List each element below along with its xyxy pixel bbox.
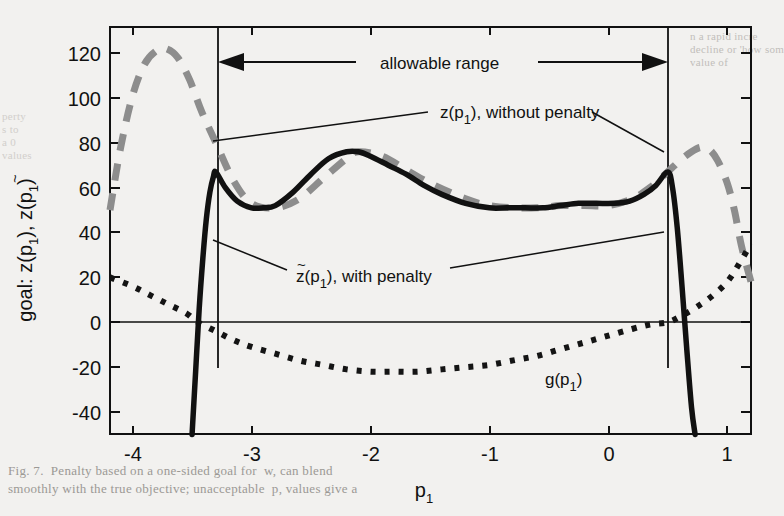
y-tick-label-100: 100 bbox=[68, 88, 101, 110]
z-without-penalty-annotation: z(p1), without penalty bbox=[213, 103, 664, 152]
y-axis-title-tilde: ~ bbox=[6, 174, 23, 183]
y-tick-label-neg40: -40 bbox=[72, 402, 101, 424]
allowable-range-annotation: allowable range bbox=[218, 53, 668, 73]
y-tick-label-120: 120 bbox=[68, 43, 101, 65]
y-axis-title-mid: ), z bbox=[14, 210, 36, 238]
svg-text:z(p1), without penalty: z(p1), without penalty bbox=[440, 103, 600, 127]
y-axis-title-mid2: (p bbox=[14, 192, 36, 210]
z-no-penalty-label-head: z(p bbox=[440, 103, 464, 122]
g-curve-label-group: g(p1) bbox=[545, 370, 582, 394]
curve-g-constraint bbox=[110, 244, 751, 372]
z-tilde-label-sub: 1 bbox=[320, 276, 327, 291]
curve-z-tilde-with-penalty bbox=[192, 151, 695, 434]
y-tick-label-0: 0 bbox=[90, 312, 101, 334]
x-axis-title-sub: 1 bbox=[426, 491, 433, 506]
g-label-head: g(p bbox=[545, 370, 570, 389]
y-axis-title-sub2: 1 bbox=[26, 185, 41, 192]
x-tick-label-1: -3 bbox=[243, 443, 261, 465]
y-axis-title: goal: z(p1), z(p1) bbox=[14, 178, 41, 321]
z-no-penalty-label-sub: 1 bbox=[464, 112, 471, 127]
y-axis-title-prefix: goal: bbox=[14, 278, 36, 321]
allowable-range-label: allowable range bbox=[380, 54, 499, 73]
x-axis-title: p1 bbox=[415, 479, 433, 506]
y-axis-title-sub1: 1 bbox=[26, 238, 41, 245]
y-tick-label-40: 40 bbox=[79, 222, 101, 244]
g-label-sub: 1 bbox=[570, 379, 577, 394]
x-tick-label-0: -4 bbox=[124, 443, 142, 465]
z-tilde-label-tail: ), with penalty bbox=[327, 267, 432, 286]
y-axis-title-z: z(p bbox=[14, 245, 36, 273]
series-group bbox=[110, 48, 751, 434]
z-with-penalty-annotation: z(p1), with penalty ~ bbox=[213, 232, 664, 291]
y-tick-label-20: 20 bbox=[79, 267, 101, 289]
svg-text:z(p1), with penalty: z(p1), with penalty bbox=[296, 267, 432, 291]
y-tick-labels: 120 100 80 60 40 20 0 -20 -40 bbox=[68, 43, 101, 424]
x-tick-labels: -4 -3 -2 -1 0 1 bbox=[124, 443, 732, 465]
x-tick-label-2: -2 bbox=[362, 443, 380, 465]
x-tick-label-3: -1 bbox=[481, 443, 499, 465]
y-tick-label-neg20: -20 bbox=[72, 357, 101, 379]
x-tick-label-4: 0 bbox=[603, 443, 614, 465]
g-label-tail: ) bbox=[577, 370, 583, 389]
z-tilde-label-open: (p bbox=[305, 267, 320, 286]
x-axis-title-p: p bbox=[415, 479, 426, 501]
z-no-penalty-label-tail: ), without penalty bbox=[471, 103, 600, 122]
z-tilde-label-diacritic: ~ bbox=[297, 256, 306, 273]
x-tick-label-5: 1 bbox=[721, 443, 732, 465]
y-tick-label-60: 60 bbox=[79, 178, 101, 200]
y-tick-label-80: 80 bbox=[79, 133, 101, 155]
